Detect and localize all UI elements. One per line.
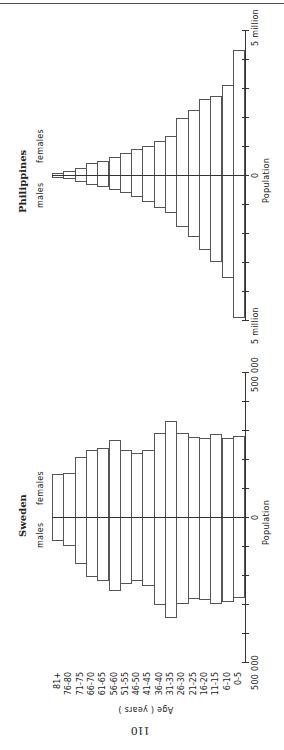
age-category-label: 81+ xyxy=(53,672,62,712)
sweden-max-label-bottom: 500 000 xyxy=(251,655,260,690)
zero-line xyxy=(52,517,245,518)
philippines-title: Philippines xyxy=(17,150,28,213)
age-category-label: 21-25 xyxy=(189,672,198,712)
philippines-females-label: females xyxy=(36,129,45,163)
age-category-label: 0-5 xyxy=(234,672,243,712)
philippines-max-label-top: 5 million xyxy=(251,9,260,46)
age-axis-label: Age ( years ) xyxy=(118,705,173,714)
philippines-males-label: males xyxy=(36,182,45,208)
age-category-label: 11-15 xyxy=(211,672,220,712)
axis-tick xyxy=(242,517,249,518)
axis-tick xyxy=(242,430,249,431)
age-category-label: 71-75 xyxy=(76,672,85,712)
age-category-label: 61-65 xyxy=(98,672,107,712)
philippines-max-label-bottom: 5 million xyxy=(251,307,260,344)
male-bar xyxy=(233,517,245,598)
sweden-title: Sweden xyxy=(17,494,28,537)
age-category-label: 6-10 xyxy=(223,672,232,712)
axis-tick xyxy=(242,488,249,489)
axis-tick xyxy=(242,662,249,663)
age-category-label: 16-20 xyxy=(200,672,209,712)
axis-tick xyxy=(242,401,249,402)
age-category-label: 66-70 xyxy=(87,672,96,712)
sweden-pyramid xyxy=(0,0,284,750)
axis-tick xyxy=(242,546,249,547)
sweden-females-label: females xyxy=(36,471,45,505)
age-category-label: 26-30 xyxy=(177,672,186,712)
sweden-max-label-top: 500 000 xyxy=(251,357,260,392)
page-number: 110 xyxy=(131,723,150,739)
axis-tick xyxy=(242,459,249,460)
philippines-population-label: Population xyxy=(262,158,271,203)
axis-tick xyxy=(242,604,249,605)
philippines-zero-label: 0 xyxy=(251,173,260,178)
sweden-males-label: males xyxy=(36,522,45,548)
sweden-population-label: Population xyxy=(262,500,271,545)
sweden-zero-label: 0 xyxy=(251,515,260,520)
age-category-label: 76-80 xyxy=(64,672,73,712)
axis-tick xyxy=(242,575,249,576)
female-bar xyxy=(233,436,245,518)
axis-tick xyxy=(242,633,249,634)
axis-tick xyxy=(242,372,249,373)
